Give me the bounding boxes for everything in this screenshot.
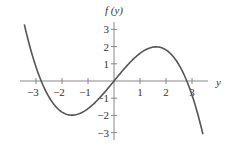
y-axis-label: f (y) [105,4,123,17]
x-tick-label: −1 [79,86,91,98]
y-tick-label: 3 [104,23,110,35]
y-tick-label: −2 [97,109,109,121]
x-axis-label: y [215,76,221,88]
function-plot: −3−2−1123−3−2−1123 y f (y) [0,0,231,150]
y-tick-label: −3 [97,127,109,139]
x-tick-label: −3 [27,86,39,98]
y-tick-label: 1 [104,58,110,70]
x-tick-label: −2 [53,86,65,98]
y-tick-label: 2 [104,41,110,53]
x-tick-label: 2 [163,86,169,98]
x-tick-label: 1 [137,86,143,98]
plot-canvas: −3−2−1123−3−2−1123 y f (y) [0,0,231,150]
